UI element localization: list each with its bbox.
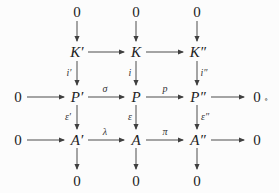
node-zero-low-left: 0 <box>14 133 22 148</box>
node-zero-mid-left: 0 <box>14 90 22 105</box>
node-zero-low-right: 0 <box>253 133 261 148</box>
node-A: A <box>131 133 140 148</box>
label-i-dprime: i″ <box>201 68 208 78</box>
node-P-prime: P′ <box>71 90 83 105</box>
label-sigma: σ <box>103 84 108 94</box>
node-zero-bottom-mid: 0 <box>132 174 140 189</box>
label-i: i <box>129 68 132 78</box>
label-epsilon: ε <box>128 112 132 122</box>
node-P: P <box>131 90 140 105</box>
label-p: p <box>163 84 168 94</box>
node-zero-bottom-right: 0 <box>193 174 201 189</box>
node-K-prime: K′ <box>70 45 83 60</box>
node-K-dprime: K″ <box>190 45 206 60</box>
node-zero-top-left: 0 <box>73 5 81 20</box>
node-zero-top-mid: 0 <box>132 5 140 20</box>
node-zero-mid-right: 0 <box>253 90 261 105</box>
node-A-dprime: A″ <box>190 133 205 148</box>
node-zero-bottom-left: 0 <box>73 174 81 189</box>
node-K: K <box>131 45 141 60</box>
terminal-ring-mark: ∘ <box>264 96 268 104</box>
node-zero-top-right: 0 <box>193 5 201 20</box>
node-A-prime: A′ <box>71 133 83 148</box>
node-P-dprime: P″ <box>190 90 205 105</box>
commutative-diagram: 0 0 0 K′ K K″ 0 P′ P P″ 0 ∘ 0 A′ A A″ 0 … <box>0 0 279 193</box>
label-i-prime: i′ <box>67 68 72 78</box>
label-epsilon-dprime: ε″ <box>201 112 209 122</box>
label-epsilon-prime: ε′ <box>65 112 71 122</box>
label-lambda: λ <box>103 127 107 137</box>
label-pi: π <box>162 127 167 137</box>
